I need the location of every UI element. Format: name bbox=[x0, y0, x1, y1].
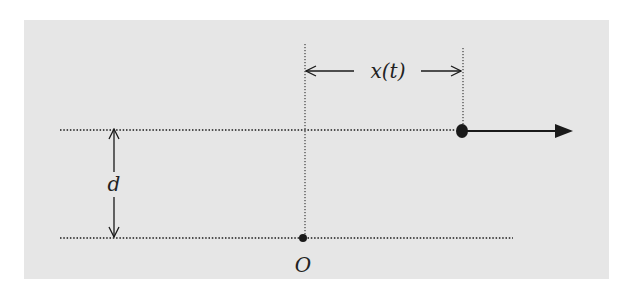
origin-dot bbox=[299, 234, 307, 242]
velocity-arrowhead-icon bbox=[555, 124, 573, 138]
particle-dot bbox=[456, 124, 468, 138]
separation-label: d bbox=[108, 172, 121, 196]
displacement-label: x(t) bbox=[371, 59, 406, 83]
diagram: x(t) d O bbox=[0, 0, 626, 297]
origin-label: O bbox=[295, 253, 311, 277]
